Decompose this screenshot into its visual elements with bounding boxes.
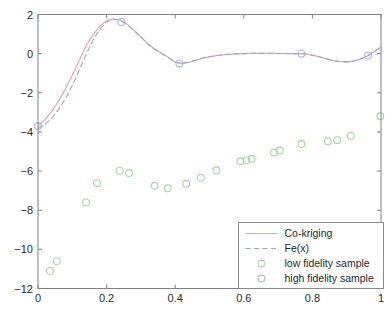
- x-tick-label: 0.4: [168, 292, 183, 304]
- y-tick-label: −12: [14, 283, 33, 295]
- legend-label: Fe(x): [285, 242, 310, 254]
- y-tick-label: 2: [27, 9, 33, 21]
- y-tick-label: −8: [20, 204, 33, 216]
- y-tick-label: 0: [27, 48, 33, 60]
- x-tick-label: 0.2: [99, 292, 114, 304]
- y-tick-label: −6: [20, 165, 33, 177]
- chart-figure: 00.20.40.60.81 20−2−4−6−8−10−12 Co-krigi…: [0, 0, 387, 319]
- x-tick-label: 0.8: [305, 292, 320, 304]
- cokriging-plot: 00.20.40.60.81 20−2−4−6−8−10−12 Co-krigi…: [0, 0, 387, 319]
- legend-label: Co-kriging: [285, 227, 333, 239]
- y-tick-label: −2: [20, 87, 33, 99]
- y-tick-label: −4: [20, 126, 33, 138]
- legend-label: high fidelity sample: [285, 272, 374, 284]
- x-tick-label: 0: [35, 292, 41, 304]
- y-tick-label: −10: [14, 243, 33, 255]
- legend-label: low fidelity sample: [285, 257, 370, 269]
- x-tick-label: 0.6: [236, 292, 251, 304]
- legend[interactable]: Co-krigingFe(x)low fidelity samplehigh f…: [239, 223, 384, 289]
- x-tick-label: 1: [378, 292, 384, 304]
